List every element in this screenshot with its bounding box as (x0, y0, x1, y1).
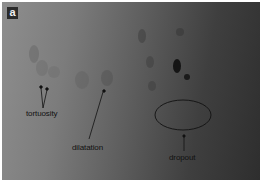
panel-label: a (7, 7, 18, 19)
dark-lesion (173, 59, 181, 73)
photo-overlay (2, 2, 260, 180)
angiography-photo: a tortuosity dilatation dropout (2, 2, 260, 180)
dropout-arrow (183, 135, 185, 151)
dropout-region-ellipse (155, 100, 211, 130)
dark-lesion-small (184, 74, 190, 80)
dilatation-arrow (89, 90, 105, 139)
vessel-texture (29, 28, 184, 91)
annotation-dilatation: dilatation (72, 143, 103, 152)
figure-panel: a tortuosity dilatation dropout (0, 0, 263, 190)
tortuosity-arrows (40, 86, 49, 108)
annotation-tortuosity: tortuosity (26, 109, 57, 118)
annotation-dropout: dropout (169, 153, 195, 162)
